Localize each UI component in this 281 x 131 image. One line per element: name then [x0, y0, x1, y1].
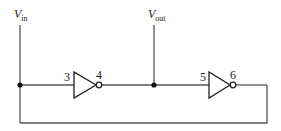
inverter-2-triangle: [209, 72, 230, 98]
inverter-1-triangle: [74, 72, 96, 98]
circuit-diagram: 3 4 5 6 Vin Vout: [0, 0, 281, 131]
pin-3-label: 3: [64, 70, 70, 84]
feedback-wire: [20, 85, 267, 123]
vin-label: Vin: [14, 7, 28, 23]
vin-junction-dot: [17, 82, 22, 87]
vout-junction-dot: [151, 82, 156, 87]
pin-4-label: 4: [96, 68, 102, 82]
pin-5-label: 5: [200, 70, 206, 84]
pin-6-label: 6: [230, 68, 236, 82]
inverter-2-bubble: [230, 82, 236, 88]
vout-label: Vout: [148, 7, 166, 23]
inverter-1-bubble: [96, 82, 102, 88]
